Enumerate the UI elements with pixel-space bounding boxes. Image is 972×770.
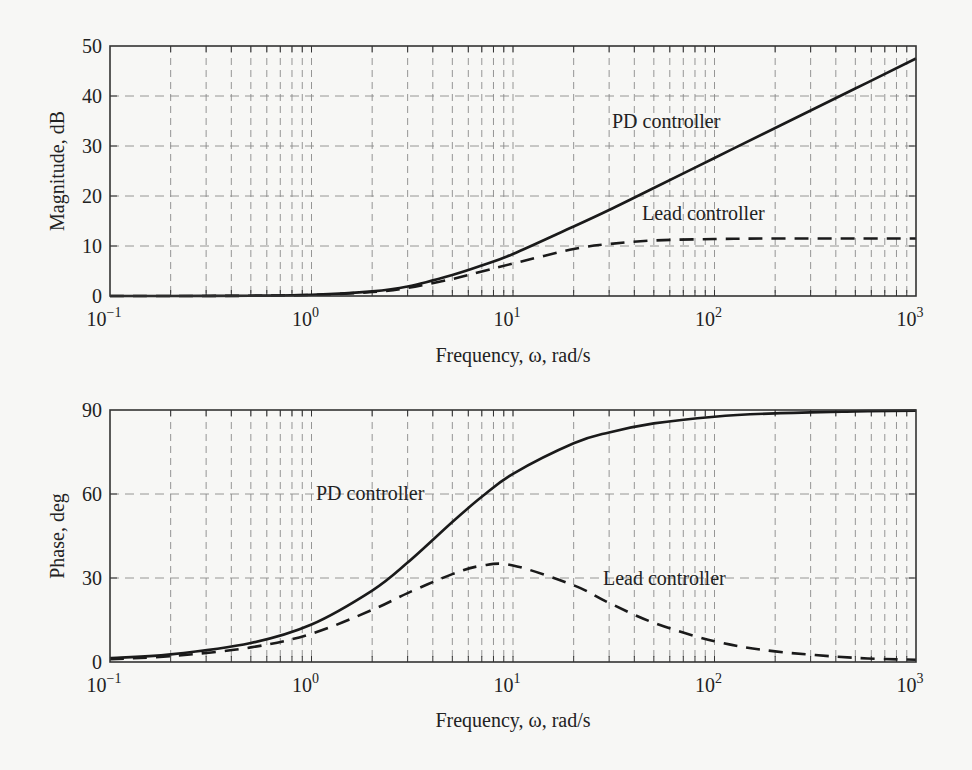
x-tick-label: 103 — [897, 305, 924, 330]
y-tick-label: 60 — [82, 483, 102, 505]
phase-x-axis-label: Frequency, ω, rad/s — [435, 709, 590, 732]
magnitude-y-tick-labels: 01020304050 — [82, 35, 102, 307]
phase-y-axis-label: Phase, deg — [46, 493, 69, 579]
y-tick-label: 30 — [82, 567, 102, 589]
magnitude-x-tick-labels: 10−1100101102103 — [87, 305, 924, 330]
x-tick-label: 101 — [494, 671, 521, 696]
phase-plot: 0306090 10−1100101102103 Frequency, ω, r… — [46, 399, 924, 732]
x-tick-label: 100 — [292, 671, 319, 696]
x-tick-label: 10−1 — [87, 671, 122, 696]
x-tick-label: 102 — [695, 671, 722, 696]
x-tick-label: 103 — [897, 671, 924, 696]
y-tick-label: 50 — [82, 35, 102, 57]
y-tick-label: 90 — [82, 399, 102, 421]
y-tick-label: 20 — [82, 185, 102, 207]
magnitude-x-axis-label: Frequency, ω, rad/s — [435, 344, 590, 367]
y-tick-label: 10 — [82, 235, 102, 257]
magnitude-y-axis-label: Magnitude, dB — [46, 111, 69, 231]
phase-lead-annotation: Lead controller — [603, 567, 726, 589]
x-tick-label: 10−1 — [87, 305, 122, 330]
phase-x-tick-labels: 10−1100101102103 — [87, 671, 924, 696]
magnitude-grid — [110, 46, 916, 296]
y-tick-label: 0 — [92, 651, 102, 673]
x-tick-label: 101 — [494, 305, 521, 330]
x-tick-label: 100 — [292, 305, 319, 330]
y-tick-label: 0 — [92, 285, 102, 307]
magnitude-lead-annotation: Lead controller — [642, 202, 765, 224]
phase-pd-annotation: PD controller — [316, 482, 425, 504]
y-tick-label: 40 — [82, 85, 102, 107]
bode-plot-figure: 01020304050 10−1100101102103 Frequency, … — [0, 0, 972, 770]
magnitude-plot: 01020304050 10−1100101102103 Frequency, … — [46, 35, 924, 367]
magnitude-pd-annotation: PD controller — [612, 110, 721, 132]
phase-y-tick-labels: 0306090 — [82, 399, 102, 673]
phase-grid — [110, 410, 916, 662]
y-tick-label: 30 — [82, 135, 102, 157]
x-tick-label: 102 — [695, 305, 722, 330]
